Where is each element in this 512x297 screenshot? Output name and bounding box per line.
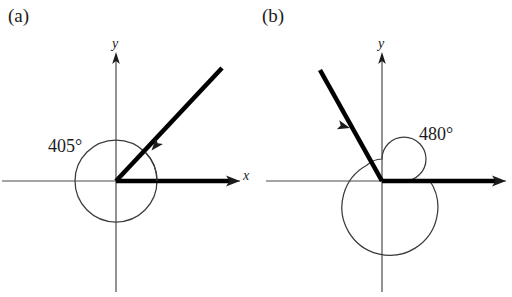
panel-a-tag: (a) bbox=[8, 5, 29, 27]
panel-a-y-axis-label: y bbox=[110, 36, 119, 51]
panel-b-inner-spiral bbox=[367, 137, 426, 181]
panel-b: (b) 480° y bbox=[262, 5, 506, 292]
panel-a-terminal-ray bbox=[116, 68, 222, 181]
angle-figure-canvas: (a) 405° x y (b) bbox=[0, 0, 512, 297]
panel-a: (a) 405° x y bbox=[2, 5, 250, 292]
figure-root: (a) 405° x y (b) bbox=[0, 0, 512, 297]
panel-b-terminal-ray bbox=[320, 70, 382, 181]
panel-b-tag: (b) bbox=[262, 5, 284, 27]
panel-a-x-axis-label: x bbox=[242, 168, 250, 183]
panel-b-angle-label: 480° bbox=[419, 124, 453, 144]
panel-a-rotation-arc bbox=[145, 152, 157, 181]
panel-a-angle-label: 405° bbox=[48, 136, 82, 156]
panel-b-y-axis-label: y bbox=[376, 36, 385, 51]
